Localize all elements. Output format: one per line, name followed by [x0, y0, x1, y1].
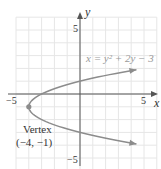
- vertex-point: [26, 104, 31, 109]
- x-tick-neg5: −5: [6, 96, 17, 106]
- vertex-label: Vertex: [23, 124, 52, 135]
- y-axis-label: y: [85, 6, 90, 18]
- x-axis-label: x: [154, 97, 159, 109]
- vertex-coordinates: (−4, −1): [16, 137, 52, 148]
- y-tick-neg5: −5: [67, 155, 78, 165]
- parabola-chart: y x 5 −5 −5 5 x = y² + 2y − 3 Vertex (−4…: [0, 0, 161, 169]
- y-tick-5: 5: [73, 24, 78, 34]
- equation-label: x = y² + 2y − 3: [86, 53, 154, 64]
- x-tick-5: 5: [141, 96, 146, 106]
